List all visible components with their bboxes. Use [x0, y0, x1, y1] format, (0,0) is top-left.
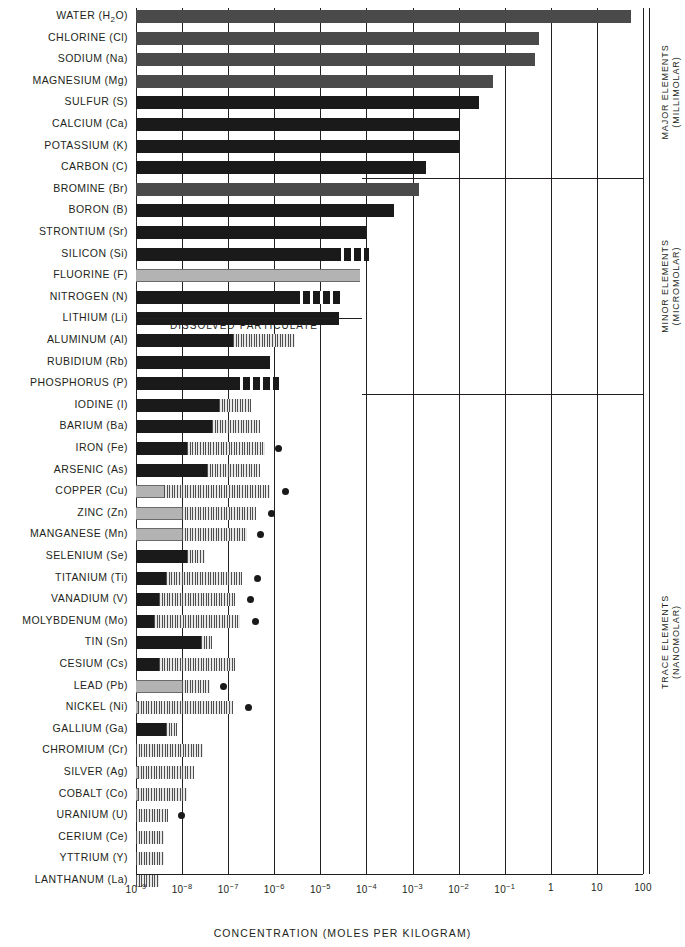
bar-row — [136, 291, 643, 304]
element-label-sulfur: SULFUR (S) — [0, 95, 128, 107]
bar-segment-dissolved — [136, 291, 293, 304]
bar-segment-particulate — [233, 334, 295, 347]
bar-row — [136, 831, 643, 844]
element-label-gallium: GALLIUM (Ga) — [0, 722, 128, 734]
bar-row — [136, 226, 643, 239]
element-label-bromine: BROMINE (Br) — [0, 182, 128, 194]
bar-segment-particulate — [136, 852, 164, 865]
element-label-cobalt: COBALT (Co) — [0, 787, 128, 799]
x-tick-10⁻²: 10−2 — [448, 882, 469, 895]
bar-segment-dissolved — [136, 572, 166, 585]
group-divider — [362, 394, 643, 395]
element-label-titanium: TITANIUM (Ti) — [0, 571, 128, 583]
bar-segment-dissolved — [136, 658, 159, 671]
bar-segment-particulate — [166, 723, 178, 736]
bar-segment-particulate — [201, 636, 213, 649]
bar-segment-dissolved — [136, 32, 539, 45]
bar-segment-particulate — [138, 701, 232, 714]
bar-row — [136, 356, 643, 369]
element-label-nickel: NICKEL (Ni) — [0, 700, 128, 712]
bar-segment-dissolved — [136, 528, 182, 541]
upper-value-dot — [247, 596, 254, 603]
bar-row — [136, 10, 643, 23]
bar-segment-dissolved — [136, 75, 493, 88]
legend-label-dissolved: DISSOLVED — [170, 320, 236, 331]
element-label-boron: BORON (B) — [0, 203, 128, 215]
bar-segment-particulate — [293, 291, 341, 304]
legend-label-particulate: PARTICULATE — [240, 320, 318, 331]
bar-segment-particulate — [233, 377, 279, 390]
bar-segment-dissolved — [136, 140, 459, 153]
element-label-iron: IRON (Fe) — [0, 441, 128, 453]
bar-segment-dissolved — [136, 442, 187, 455]
legend-rule — [136, 318, 362, 319]
element-label-calcium: CALCIUM (Ca) — [0, 117, 128, 129]
bar-segment-dissolved — [136, 118, 460, 131]
element-label-iodine: IODINE (I) — [0, 398, 128, 410]
element-label-strontium: STRONTIUM (Sr) — [0, 225, 128, 237]
x-axis-title: CONCENTRATION (MOLES PER KILOGRAM) — [0, 927, 685, 939]
bar-segment-dissolved — [136, 183, 419, 196]
element-label-yttrium: YTTRIUM (Y) — [0, 851, 128, 863]
bar-segment-dissolved — [136, 161, 426, 174]
bar-row — [136, 269, 643, 282]
group-label-trace: TRACE ELEMENTS(NANOMOLAR) — [660, 595, 682, 689]
bar-segment-dissolved — [136, 226, 366, 239]
x-tick-10⁻³: 10−3 — [402, 882, 423, 895]
element-label-lanthanum: LANTHANUM (La) — [0, 873, 128, 885]
bar-row — [136, 550, 643, 563]
bar-segment-dissolved — [136, 248, 334, 261]
element-label-aluminum: ALUMINUM (Al) — [0, 333, 128, 345]
bar-segment-particulate — [212, 420, 260, 433]
bar-segment-particulate — [138, 788, 186, 801]
bar-row — [136, 528, 643, 541]
bar-row — [136, 485, 643, 498]
bar-segment-dissolved — [136, 485, 164, 498]
upper-value-dot — [254, 575, 261, 582]
bar-segment-particulate — [182, 528, 247, 541]
element-label-barium: BARIUM (Ba) — [0, 419, 128, 431]
bar-row — [136, 464, 643, 477]
bar-segment-dissolved — [136, 464, 207, 477]
bar-row — [136, 32, 643, 45]
bar-segment-particulate — [154, 615, 239, 628]
group-divider — [362, 178, 643, 179]
element-label-zinc: ZINC (Zn) — [0, 506, 128, 518]
bar-row — [136, 852, 643, 865]
x-tick-10⁻¹: 10−1 — [494, 882, 515, 895]
bar-row — [136, 809, 643, 822]
bar-row — [136, 248, 643, 261]
element-label-lithium: LITHIUM (Li) — [0, 311, 128, 323]
bar-segment-particulate — [138, 766, 193, 779]
upper-value-dot — [252, 618, 259, 625]
bar-row — [136, 118, 643, 131]
element-label-tin: TIN (Sn) — [0, 635, 128, 647]
bar-segment-dissolved — [136, 356, 270, 369]
bar-row — [136, 701, 643, 714]
bar-segment-particulate — [166, 572, 242, 585]
bar-segment-dissolved — [136, 636, 201, 649]
group-rail — [649, 8, 650, 874]
seawater-concentration-chart: WATER (H2O)CHLORINE (Cl)SODIUM (Na)MAGNE… — [0, 0, 685, 947]
bar-row — [136, 615, 643, 628]
element-label-potassium: POTASSIUM (K) — [0, 139, 128, 151]
x-tick-10⁻⁴: 10−4 — [356, 882, 377, 895]
bar-segment-dissolved — [136, 53, 535, 66]
bar-row — [136, 53, 643, 66]
bar-segment-dissolved — [136, 615, 154, 628]
bar-segment-dissolved — [136, 550, 187, 563]
element-label-manganese: MANGANESE (Mn) — [0, 527, 128, 539]
bar-segment-dissolved — [136, 10, 631, 23]
element-label-chromium: CHROMIUM (Cr) — [0, 743, 128, 755]
x-tick-10⁻⁶: 10−6 — [264, 882, 285, 895]
bar-row — [136, 334, 643, 347]
x-tick-100: 100 — [634, 882, 652, 893]
bar-row — [136, 140, 643, 153]
bar-segment-particulate — [219, 399, 251, 412]
x-tick-1: 1 — [548, 882, 554, 893]
upper-value-dot — [275, 445, 282, 452]
x-tick-10: 10 — [591, 882, 603, 893]
bar-segment-dissolved — [136, 507, 182, 520]
bar-segment-dissolved — [136, 420, 212, 433]
element-label-nitrogen: NITROGEN (N) — [0, 290, 128, 302]
